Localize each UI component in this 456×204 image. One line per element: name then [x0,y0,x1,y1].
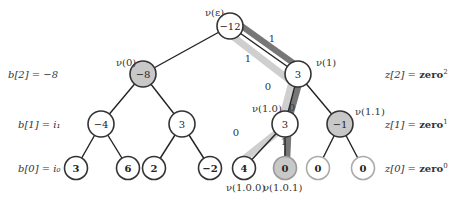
node-name-label: ν(1) [316,57,336,68]
node-value: −8 [136,69,151,80]
tree-node-l001: 6 [117,157,140,180]
node-name-label: ν(1.0.0) [226,182,265,193]
tree-node-l100: 4 [233,157,256,180]
node-value: −12 [219,21,240,32]
node-value: 3 [295,69,301,80]
tree-node-l000: 3 [65,157,88,180]
tree-node-n00: −4 [88,111,114,137]
tree-edges [76,26,363,168]
tree-node-n01: 3 [169,111,195,137]
tree-diagram: −12−83−433−1362−24000 ν(ε)ν(0)ν(1)ν(1.0)… [0,0,456,204]
edge-label: 0 [233,127,239,138]
bit-label: b[1] = i₁ [18,119,61,130]
right-labels: z[2] = zero2z[1] = zero1z[0] = zero0 [384,68,448,174]
tree-node-n11: −1 [327,111,353,137]
node-value: 2 [151,163,158,174]
tree-node-n1: 3 [285,61,311,87]
node-name-label: ν(0) [116,57,136,68]
node-value: 6 [125,163,132,174]
bit-label: b[0] = i₀ [18,163,61,174]
node-value: 3 [282,119,288,130]
node-value: 4 [241,163,248,174]
node-value: −2 [202,163,217,174]
node-value: 0 [315,163,322,174]
tree-node-l010: 2 [143,157,166,180]
tree-node-l111: 0 [352,157,375,180]
edge-label: 1 [281,136,287,147]
node-value: −4 [94,119,109,130]
tree-node-l110: 0 [307,157,330,180]
zero-label: z[1] = zero1 [384,118,448,130]
edge-label: 0 [289,102,295,113]
edge-label: 0 [265,81,271,92]
node-name-label: ν(1.0.1) [263,182,302,193]
node-value: −1 [333,119,348,130]
node-name-label: ν(ε) [205,7,224,18]
tree-node-l011: −2 [199,157,222,180]
node-value: 0 [360,163,367,174]
tree-node-l101: 0 [274,157,297,180]
tree-node-n10: 3 [272,111,298,137]
node-name-label: ν(1.1) [355,106,385,117]
edge-root-n0 [143,26,230,74]
node-name-label: ν(1.0) [252,103,282,114]
zero-label: z[0] = zero0 [384,162,448,174]
node-value: 3 [179,119,185,130]
left-labels: b[2] = −8b[1] = i₁b[0] = i₀ [8,69,61,174]
node-value: 3 [73,163,80,174]
zero-label: z[2] = zero2 [384,68,448,80]
highlight-paths [227,22,303,164]
node-value: 0 [282,163,289,174]
edge-label: 1 [245,53,251,64]
bit-label: b[2] = −8 [8,69,58,80]
tree-nodes: −12−83−433−1362−24000 [65,13,375,180]
edge-label: 1 [269,33,275,44]
